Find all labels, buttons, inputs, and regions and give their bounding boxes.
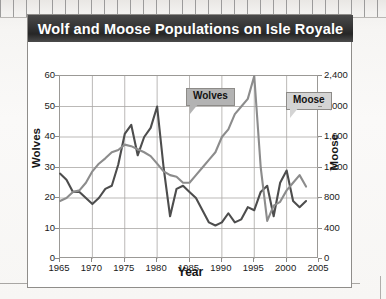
x-tick-1975: 1975 [109, 262, 139, 273]
x-tick-1970: 1970 [76, 262, 106, 273]
y-tick-left-30: 30 [28, 161, 55, 172]
x-tick-1995: 1995 [238, 262, 268, 273]
axis-tickmark [55, 136, 59, 137]
axis-tickmark [318, 136, 322, 137]
plot-area: Wolves Moose [59, 75, 318, 258]
plot-wrapper: Wolves Moose Year 0102030405060 04008001… [28, 42, 353, 289]
x-tick-1980: 1980 [141, 262, 171, 273]
y-tick-right-1600: 1,600 [324, 130, 348, 141]
chart-title-bar: Wolf and Moose Populations on Isle Royal… [28, 15, 353, 42]
y-tick-right-1200: 1,200 [324, 161, 348, 172]
axis-tickmark [55, 228, 59, 229]
chart-figure-card: Wolf and Moose Populations on Isle Royal… [27, 14, 352, 288]
series-callout-wolves-tail [190, 103, 199, 114]
y-tick-right-400: 400 [324, 222, 340, 233]
series-callout-wolves[interactable]: Wolves [186, 88, 235, 106]
axis-tickmark [55, 106, 59, 107]
axis-tickmark [318, 228, 322, 229]
y-tick-left-50: 50 [28, 100, 55, 111]
axis-tickmark [55, 167, 59, 168]
axis-tickmark [189, 258, 190, 262]
x-tick-1985: 1985 [174, 262, 204, 273]
axis-tickmark [318, 75, 322, 76]
axis-tickmark [91, 258, 92, 262]
page-edge-right-line [380, 276, 381, 299]
axis-tickmark [156, 258, 157, 262]
axis-tickmark [55, 75, 59, 76]
x-tick-1965: 1965 [44, 262, 74, 273]
x-tick-2005: 2005 [303, 262, 333, 273]
y-tick-left-10: 10 [28, 222, 55, 233]
axis-tickmark [318, 167, 322, 168]
axis-tickmark [59, 258, 60, 262]
y-tick-left-20: 20 [28, 191, 55, 202]
axis-tickmark [318, 106, 322, 107]
series-callout-moose-tail [290, 107, 299, 118]
y-tick-right-800: 800 [324, 191, 340, 202]
y-tick-left-40: 40 [28, 130, 55, 141]
axis-tickmark [286, 258, 287, 262]
axis-tickmark [253, 258, 254, 262]
y-tick-right-2400: 2,400 [324, 69, 348, 80]
chart-title: Wolf and Moose Populations on Isle Royal… [38, 21, 344, 37]
y-tick-left-60: 60 [28, 69, 55, 80]
axis-tickmark [55, 197, 59, 198]
axis-tickmark [318, 197, 322, 198]
axis-tickmark [124, 258, 125, 262]
series-callout-moose[interactable]: Moose [286, 92, 332, 110]
axis-tickmark [221, 258, 222, 262]
axis-tickmark [318, 258, 319, 262]
x-tick-1990: 1990 [206, 262, 236, 273]
x-tick-2000: 2000 [271, 262, 301, 273]
